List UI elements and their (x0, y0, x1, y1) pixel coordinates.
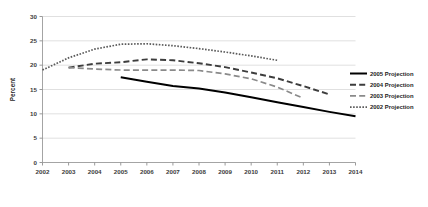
y-tick-label: 20 (30, 61, 37, 68)
x-tick-label: 2005 (114, 168, 128, 175)
legend-label: 2003 Projection (370, 93, 414, 99)
line-chart: 2002200320042005200620072008200920102011… (0, 0, 428, 207)
y-tick-label: 0 (34, 159, 38, 166)
series-line-2005-projection (121, 77, 356, 116)
chart-legend: 2005 Projection2004 Projection2003 Proje… (350, 71, 414, 111)
series-line-2003-projection (69, 68, 304, 99)
x-tick-label: 2007 (166, 168, 180, 175)
legend-label: 2004 Projection (370, 82, 414, 88)
x-tick-label: 2013 (323, 168, 337, 175)
y-tick-label: 5 (34, 134, 38, 141)
x-tick-label: 2002 (36, 168, 50, 175)
x-tick-label: 2009 (218, 168, 232, 175)
y-tick-label: 15 (30, 86, 37, 93)
x-tick-label: 2010 (244, 168, 258, 175)
x-axis-tick-labels: 2002200320042005200620072008200920102011… (36, 168, 363, 175)
x-tick-label: 2011 (271, 168, 285, 175)
data-series-group (43, 44, 356, 117)
y-tick-label: 10 (30, 110, 37, 117)
y-tick-label: 30 (30, 13, 37, 20)
plot-gridlines (43, 17, 356, 139)
y-tick-label: 25 (30, 37, 37, 44)
x-tick-label: 2012 (296, 168, 310, 175)
legend-label: 2002 Projection (370, 104, 414, 110)
y-axis-title: Percent (9, 77, 16, 101)
chart-container: 2002200320042005200620072008200920102011… (0, 0, 428, 207)
x-tick-label: 2004 (88, 168, 102, 175)
legend-label: 2005 Projection (370, 71, 414, 77)
y-axis-tick-labels: 051015202530 (30, 13, 37, 166)
x-tick-label: 2008 (192, 168, 206, 175)
x-tick-label: 2014 (349, 168, 363, 175)
x-tick-label: 2003 (62, 168, 76, 175)
x-tick-label: 2006 (140, 168, 154, 175)
y-axis-label: Percent (9, 77, 16, 101)
